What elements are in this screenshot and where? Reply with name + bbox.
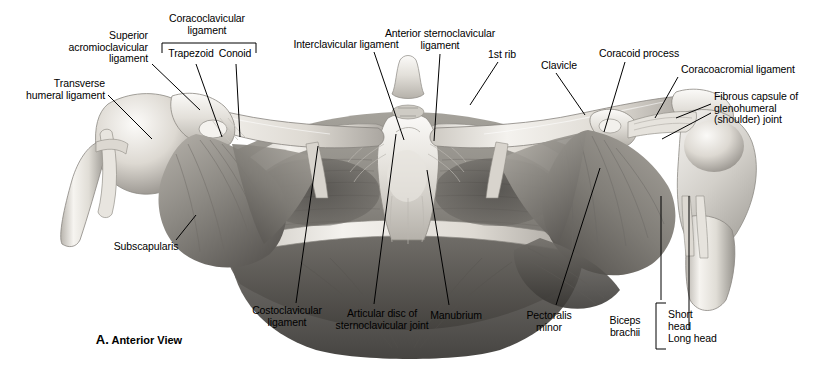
label-fibrous-capsule-glenohumeral-joint: Fibrous capsule of glenohumeral (shoulde… <box>714 91 813 126</box>
caption-view-text: Anterior View <box>111 334 182 346</box>
label-biceps-brachii: Biceps brachii <box>599 315 651 338</box>
label-pectoralis-minor: Pectoralis minor <box>516 310 582 333</box>
label-short-head: Short head <box>668 309 728 332</box>
label-trapezoid: Trapezoid <box>163 48 219 60</box>
label-conoid: Conoid <box>212 48 258 60</box>
figure-caption: A. Anterior View <box>78 312 182 366</box>
label-transverse-humeral-ligament: Transverse humeral ligament <box>5 78 105 101</box>
label-coracoacromial-ligament: Coracoacromial ligament <box>667 64 809 76</box>
label-coracoid-process: Coracoid process <box>588 48 690 60</box>
label-first-rib: 1st rib <box>478 49 526 61</box>
label-manubrium: Manubrium <box>421 310 491 322</box>
label-subscapularis: Subscapularis <box>100 241 192 253</box>
label-long-head: Long head <box>668 333 734 345</box>
biceps-brachii-bracket <box>655 302 667 350</box>
label-superior-acromioclavicular-ligament: Superior acromioclavicular ligament <box>28 30 148 65</box>
figure-root: Superior acromioclavicular ligament Tran… <box>0 0 813 383</box>
label-coracoclavicular-ligament: Coracoclavicular ligament <box>157 13 257 36</box>
label-clavicle: Clavicle <box>531 60 587 72</box>
caption-letter: A. <box>96 332 109 347</box>
